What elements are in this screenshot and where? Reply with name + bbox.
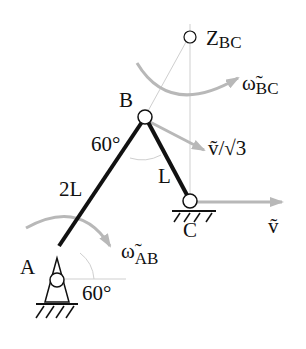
label-a: A <box>20 255 36 279</box>
label-zbc: ZBC <box>206 26 242 52</box>
label-vb: ṽ/√3 <box>208 136 246 160</box>
label-b: B <box>119 88 133 112</box>
label-link-bc: L <box>158 164 171 188</box>
joint-a <box>50 273 64 287</box>
label-angle-a: 60° <box>82 281 111 305</box>
joint-c <box>183 194 197 208</box>
mechanism-diagram: ZBC ω̃BC B 60° ṽ/√3 L 2L C ṽ ω̃AB A 60° <box>0 0 306 349</box>
instant-center-zbc <box>184 31 196 43</box>
label-omega-ab: ω̃AB <box>121 239 158 268</box>
omega-bc-arrow <box>137 63 238 95</box>
angle-arc-b <box>130 155 161 160</box>
label-c: C <box>183 218 197 242</box>
label-link-ab: 2L <box>59 177 82 201</box>
label-angle-b: 60° <box>91 132 120 156</box>
angle-arc-a <box>80 253 94 279</box>
joint-b <box>138 110 152 124</box>
label-omega-bc: ω̃BC <box>242 71 279 98</box>
instant-center-line <box>148 42 186 111</box>
pin-support-a <box>36 258 78 318</box>
velocity-b-arrow <box>150 122 204 150</box>
label-vc: ṽ <box>268 214 279 238</box>
